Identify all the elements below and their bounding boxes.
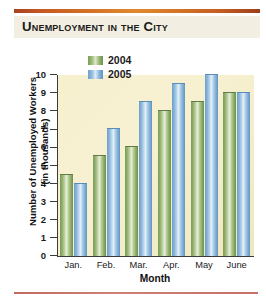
y-axis-tick xyxy=(50,201,57,202)
y-axis-title-line1: Number of Unemployed Workers xyxy=(27,62,39,242)
top-decorative-rule xyxy=(14,9,260,13)
y-axis-tick xyxy=(50,237,57,238)
y-axis-tick xyxy=(50,92,57,93)
legend: 20042005 xyxy=(88,54,150,82)
y-axis-tick-label: 0 xyxy=(30,251,46,261)
legend-swatch-icon xyxy=(88,56,103,65)
y-axis-tick xyxy=(50,255,57,256)
y-axis-tick xyxy=(50,74,57,75)
plot-area xyxy=(57,75,254,257)
y-axis-tick xyxy=(50,129,57,130)
y-axis-tick xyxy=(50,183,57,184)
legend-item: 2004 xyxy=(88,54,150,67)
legend-label: 2005 xyxy=(108,68,131,81)
x-axis-tick-label: June xyxy=(220,260,254,271)
x-axis-tick-label: Apr. xyxy=(154,260,188,271)
y-axis-title-line2: (in thousands) xyxy=(38,62,50,242)
legend-item: 2005 xyxy=(88,68,150,81)
x-axis-title: Month xyxy=(57,273,253,284)
x-axis-tick-label: May xyxy=(187,260,221,271)
y-axis-tick xyxy=(50,165,57,166)
legend-label: 2004 xyxy=(108,54,131,67)
y-axis-title: Number of Unemployed Workers(in thousand… xyxy=(27,62,50,242)
bottom-decorative-rule xyxy=(14,292,258,294)
chart-figure: Unemployment in the City 109876543210 Nu… xyxy=(0,0,266,301)
x-axis-tick-label: Feb. xyxy=(89,260,123,271)
y-axis-tick xyxy=(50,147,57,148)
x-axis-tick-label: Mar. xyxy=(122,260,156,271)
y-axis-tick xyxy=(50,110,57,111)
chart-title: Unemployment in the City xyxy=(22,18,252,36)
y-axis-tick xyxy=(50,219,57,220)
legend-swatch-icon xyxy=(88,70,103,79)
x-axis-tick-label: Jan. xyxy=(56,260,90,271)
